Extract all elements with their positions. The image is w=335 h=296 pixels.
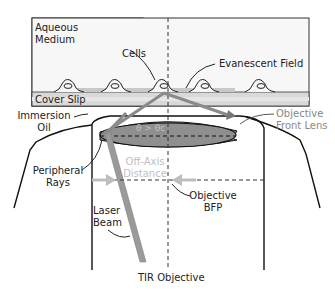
- label-objective: Objective: [276, 108, 328, 120]
- label-front-lens: Front Lens: [276, 120, 328, 132]
- label-peripheral: Peripheral: [30, 165, 86, 177]
- label-bfp: BFP: [188, 202, 238, 214]
- label-cells: Cells: [122, 48, 146, 60]
- label-tir-objective: TIR Objective: [138, 272, 205, 284]
- label-off-axis-distance: Off-Axis Distance: [120, 156, 170, 180]
- label-evanescent-field: Evanescent Field: [219, 58, 303, 70]
- label-distance: Distance: [120, 168, 170, 180]
- label-cover-slip: Cover Slip: [35, 94, 86, 106]
- label-medium: Medium: [35, 34, 78, 46]
- label-rays: Rays: [30, 177, 86, 189]
- label-immersion-oil: Immersion Oil: [16, 110, 72, 134]
- label-objective-bfp-1: Objective: [188, 190, 238, 202]
- label-objective-bfp: Objective BFP: [188, 190, 238, 214]
- label-laser-beam: Laser Beam: [93, 205, 122, 229]
- label-immersion: Immersion: [16, 110, 72, 122]
- label-oil: Oil: [16, 122, 72, 134]
- label-peripheral-rays: Peripheral Rays: [30, 165, 86, 189]
- label-beam: Beam: [93, 217, 122, 229]
- label-laser: Laser: [93, 205, 122, 217]
- label-aqueous: Aqueous: [35, 22, 78, 34]
- label-angle-condition: θ > θc: [136, 122, 165, 134]
- label-objective-front-lens: Objective Front Lens: [276, 108, 328, 132]
- label-aqueous-medium: Aqueous Medium: [35, 22, 78, 46]
- label-off-axis: Off-Axis: [120, 156, 170, 168]
